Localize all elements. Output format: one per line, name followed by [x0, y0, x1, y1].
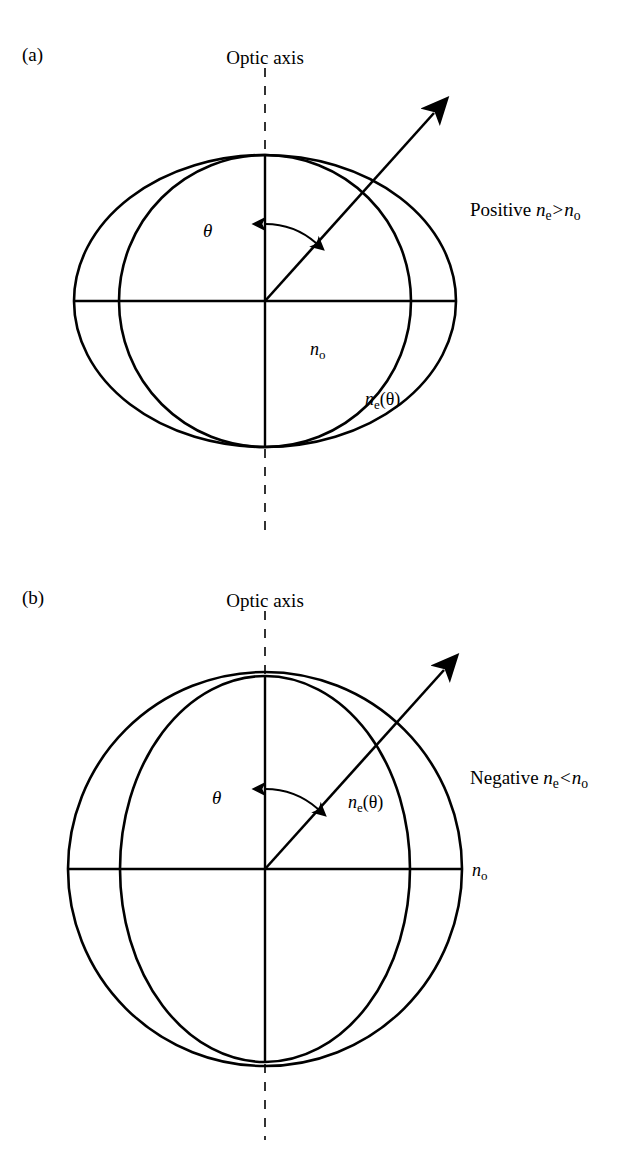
extraordinary-index-label-b: ne(θ)	[348, 793, 383, 815]
crystal-type-note-a: Positive ne>no	[470, 200, 581, 223]
crystal-type-word-b: Negative	[470, 767, 539, 788]
optic-axis-title-a: Optic axis	[226, 48, 304, 67]
panel-tag-b: (b)	[22, 588, 44, 607]
ordinary-index-label-a: no	[310, 340, 325, 362]
no-symbol-b: no	[572, 767, 588, 788]
wave-normal-ray-b[interactable]	[265, 670, 444, 869]
extraordinary-index-label-a: ne(θ)	[365, 390, 400, 412]
panel-a-graphics	[74, 68, 456, 535]
theta-arc-b	[265, 789, 318, 809]
crystal-type-word-a: Positive	[470, 199, 531, 220]
panel-tag-a: (a)	[22, 45, 43, 64]
ne-symbol-b: ne	[539, 767, 559, 788]
relation-operator-b: <	[559, 767, 572, 788]
optic-axis-title-b: Optic axis	[226, 591, 304, 610]
theta-angle-label-a: θ	[203, 221, 212, 240]
figure-vector-canvas	[0, 0, 620, 1160]
panel-b-graphics	[68, 611, 463, 1140]
theta-angle-label-b: θ	[212, 788, 221, 807]
ne-symbol-a: ne	[531, 199, 551, 220]
relation-operator-a: >	[552, 199, 565, 220]
ordinary-index-label-b: no	[472, 861, 487, 883]
no-symbol-a: no	[564, 199, 580, 220]
index-ellipsoid-figure: (a) Optic axis Positive ne>no θ no ne(θ)…	[0, 0, 620, 1160]
theta-arc-a	[265, 224, 316, 243]
crystal-type-note-b: Negative ne<no	[470, 768, 588, 791]
